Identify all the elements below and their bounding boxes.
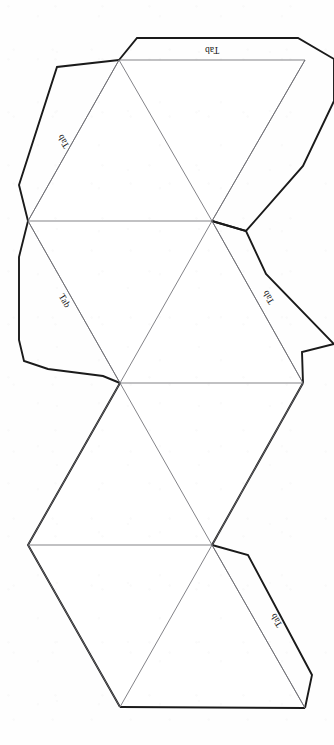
face-fills bbox=[28, 60, 305, 708]
tab-top-outline bbox=[119, 38, 334, 60]
tab-label-upper-left: Tab bbox=[55, 133, 71, 151]
tab-label-lower-right: Tab bbox=[268, 612, 284, 630]
polyhedron-net-drawing: Tab Tab Tab Tab Tab bbox=[0, 0, 334, 745]
bottom-outline bbox=[120, 707, 305, 708]
net-sheet-canvas: Tab Tab Tab Tab Tab bbox=[0, 0, 334, 745]
tab-label-mid-right: Tab bbox=[260, 289, 276, 307]
face-fill-strip bbox=[28, 60, 305, 708]
tab-label-top: Tab bbox=[205, 45, 220, 55]
